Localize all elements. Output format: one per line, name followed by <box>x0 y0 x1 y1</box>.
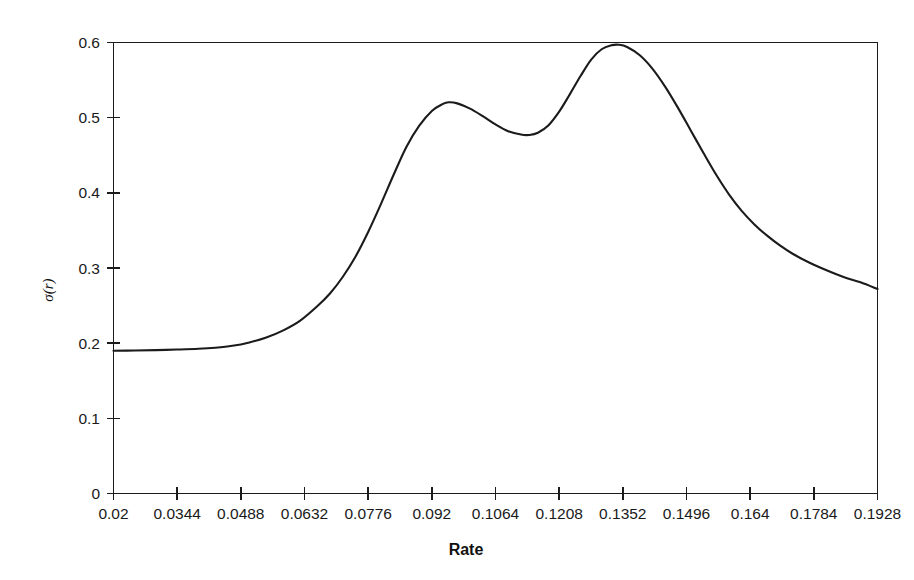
y-tick-label: 0.5 <box>78 109 100 126</box>
x-tick-label: 0.0632 <box>281 505 328 522</box>
x-tick-label: 0.092 <box>412 505 451 522</box>
y-tick-label: 0.1 <box>78 410 100 427</box>
line-chart: 0 0.1 0.2 0.3 0.4 0.5 0.6 0.02 <box>0 0 914 580</box>
y-tick-label: 0.2 <box>78 335 100 352</box>
data-series-line <box>114 45 878 351</box>
chart-figure: 0 0.1 0.2 0.3 0.4 0.5 0.6 0.02 <box>0 0 914 580</box>
x-tick-label: 0.02 <box>98 505 128 522</box>
x-axis-title: Rate <box>449 541 484 558</box>
y-tick-label: 0 <box>91 485 100 502</box>
x-tick-label: 0.1064 <box>472 505 520 522</box>
x-tick-label: 0.1928 <box>854 505 901 522</box>
x-tick-label: 0.1784 <box>790 505 838 522</box>
x-tick-label: 0.1208 <box>535 505 582 522</box>
y-tick-label: 0.6 <box>78 34 100 51</box>
x-tick-labels: 0.02 0.0344 0.0488 0.0632 0.0776 0.092 0… <box>98 505 901 522</box>
plot-frame <box>114 43 878 494</box>
x-tick-label: 0.1496 <box>663 505 710 522</box>
x-tick-label: 0.1352 <box>599 505 646 522</box>
x-tick-label: 0.0776 <box>344 505 391 522</box>
y-tick-label: 0.4 <box>78 184 100 201</box>
y-tick-labels: 0 0.1 0.2 0.3 0.4 0.5 0.6 <box>78 34 100 502</box>
x-tick-label: 0.164 <box>731 505 770 522</box>
x-tick-label: 0.0488 <box>217 505 264 522</box>
y-tick-label: 0.3 <box>78 260 100 277</box>
y-axis-title: σ(r) <box>40 278 57 301</box>
x-tick-label: 0.0344 <box>153 505 201 522</box>
